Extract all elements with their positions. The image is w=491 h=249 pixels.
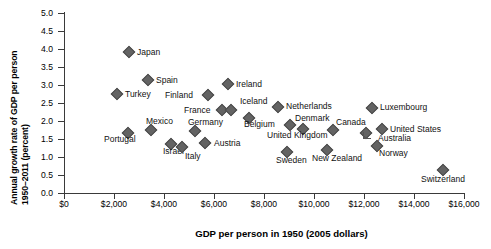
y-tick-mark — [58, 121, 65, 122]
y-tick-mark — [58, 103, 65, 104]
data-point-label: France — [184, 106, 210, 115]
y-tick-label: 2.0 — [25, 116, 53, 126]
data-point-label: Ireland — [236, 80, 262, 89]
y-tick-mark — [58, 13, 65, 14]
data-point-label: Finland — [165, 91, 193, 100]
x-tick-label: $10,000 — [298, 199, 329, 209]
data-point-marker — [199, 137, 212, 150]
data-point-marker — [142, 74, 155, 87]
y-tick-mark — [58, 49, 65, 50]
data-point-label: Austria — [214, 139, 240, 148]
data-point-label: United Kingdom — [267, 131, 327, 140]
data-point-label: Germany — [188, 118, 223, 127]
y-tick-mark — [58, 85, 65, 86]
y-tick-mark — [58, 175, 65, 176]
x-axis-title: GDP per person in 1950 (2005 dollars) — [0, 228, 491, 239]
y-tick-mark — [58, 157, 65, 158]
data-point-label: Luxembourg — [380, 103, 427, 112]
x-tick-label: $0 — [59, 199, 69, 209]
data-point-marker — [202, 89, 215, 102]
data-point-label: Netherlands — [286, 102, 332, 111]
data-point-label: Belgium — [244, 120, 275, 129]
y-tick-label: 0.5 — [25, 170, 53, 180]
y-tick-label: 1.0 — [25, 152, 53, 162]
data-point-label: Australia — [378, 134, 411, 143]
y-tick-mark — [58, 31, 65, 32]
x-tick-label: $14,000 — [398, 199, 429, 209]
y-tick-mark — [58, 139, 65, 140]
y-tick-label: 3.0 — [25, 80, 53, 90]
data-point-label: Portugal — [104, 135, 136, 144]
x-tick-label: $2,000 — [101, 199, 127, 209]
y-tick-label: 0.0 — [25, 188, 53, 198]
data-point-label: Japan — [137, 48, 160, 57]
scatter-chart: Annual growth rate of GDP per person 195… — [0, 0, 491, 249]
data-point-label: Switzerland — [421, 175, 465, 184]
x-tick-label: $12,000 — [348, 199, 379, 209]
australia-leader-line — [363, 132, 371, 139]
y-tick-label: 4.5 — [25, 26, 53, 36]
data-point-label: Canada — [336, 118, 366, 127]
data-point-marker — [222, 78, 235, 91]
data-point-marker — [366, 102, 379, 115]
data-point-label: Mexico — [146, 117, 173, 126]
y-tick-label: 3.5 — [25, 62, 53, 72]
data-point-marker — [272, 101, 285, 114]
x-tick-label: $6,000 — [201, 199, 227, 209]
data-point-marker — [111, 88, 124, 101]
x-axis-title-text: GDP per person in 1950 (2005 dollars) — [195, 228, 368, 239]
data-point-label: Denmark — [295, 114, 329, 123]
y-tick-label: 4.0 — [25, 44, 53, 54]
data-point-label: Turkey — [125, 90, 151, 99]
data-point-label: Italy — [185, 152, 201, 161]
data-point-marker — [225, 103, 238, 116]
y-axis-title-line1: Annual growth rate of GDP per person — [9, 50, 20, 205]
data-point-label: Spain — [156, 76, 178, 85]
x-tick-label: $8,000 — [251, 199, 277, 209]
data-point-label: Norway — [379, 149, 408, 158]
data-point-label: Sweden — [276, 156, 307, 165]
y-tick-mark — [58, 67, 65, 68]
x-tick-label: $4,000 — [151, 199, 177, 209]
data-point-label: Iceland — [240, 97, 267, 106]
x-tick-label: $16,000 — [448, 199, 479, 209]
data-point-label: New Zealand — [312, 154, 362, 163]
data-point-marker — [123, 46, 136, 59]
y-tick-label: 2.5 — [25, 98, 53, 108]
y-tick-label: 1.5 — [25, 134, 53, 144]
y-tick-label: 5.0 — [25, 8, 53, 18]
